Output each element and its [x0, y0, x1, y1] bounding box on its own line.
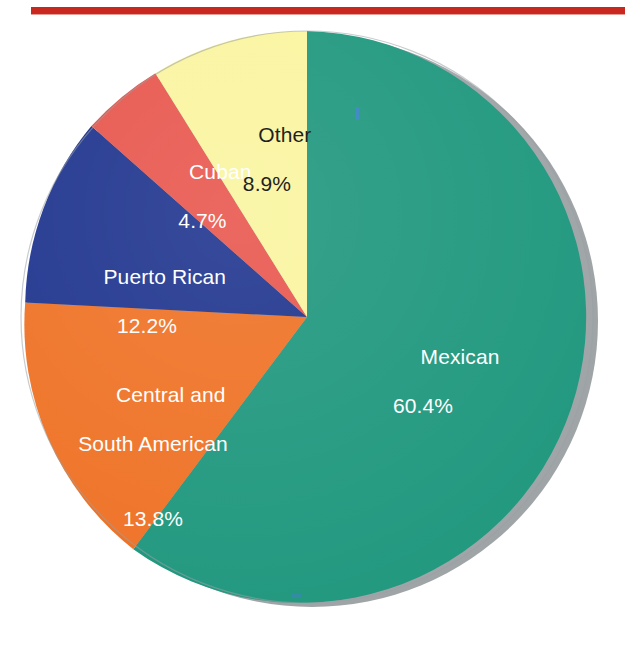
scan-artefact	[355, 107, 359, 120]
pie-sheen	[21, 31, 593, 603]
pie-chart: Mexican 60.4% Central and South American…	[0, 0, 625, 645]
pie-chart-svg	[0, 0, 625, 645]
page-root: Mexican 60.4% Central and South American…	[0, 0, 625, 645]
scan-artefact	[292, 594, 301, 598]
